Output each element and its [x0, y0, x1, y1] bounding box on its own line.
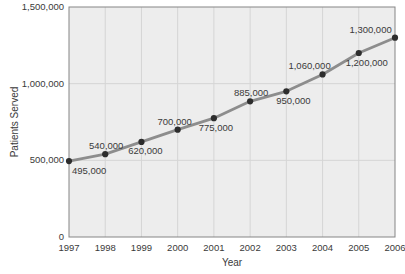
data-point-label: 775,000	[199, 122, 233, 133]
y-tick-label: 0	[59, 231, 64, 242]
data-point	[319, 71, 325, 77]
x-tick-label: 2005	[348, 242, 369, 253]
x-tick-label: 1998	[95, 242, 116, 253]
y-axis-title: Patients Served	[9, 87, 20, 158]
data-point	[392, 35, 398, 41]
data-point-label: 885,000	[234, 87, 268, 98]
x-tick-label: 1997	[58, 242, 79, 253]
patients-served-figure: 0500,0001,000,0001,500,00019971998199920…	[0, 0, 405, 274]
x-tick-label: 2001	[203, 242, 224, 253]
data-point-label: 495,000	[72, 165, 106, 176]
data-point	[247, 98, 253, 104]
data-point-label: 950,000	[276, 95, 310, 106]
data-point	[102, 151, 108, 157]
y-tick-label: 1,000,000	[22, 78, 64, 89]
data-point	[66, 158, 72, 164]
data-point	[211, 115, 217, 121]
x-tick-label: 2002	[240, 242, 261, 253]
x-tick-label: 2004	[312, 242, 333, 253]
x-tick-label: 2003	[276, 242, 297, 253]
x-tick-label: 1999	[131, 242, 152, 253]
data-point	[138, 139, 144, 145]
data-point-label: 700,000	[157, 116, 191, 127]
data-point	[283, 88, 289, 94]
data-point-label: 620,000	[128, 145, 162, 156]
data-point-label: 1,300,000	[349, 24, 391, 35]
x-tick-label: 2000	[167, 242, 188, 253]
x-tick-label: 2006	[384, 242, 405, 253]
x-axis-title: Year	[222, 257, 242, 268]
data-point	[175, 127, 181, 133]
data-point-label: 1,060,000	[288, 60, 330, 71]
data-point-label: 1,200,000	[346, 57, 388, 68]
y-tick-label: 1,500,000	[22, 1, 64, 12]
data-point-label: 540,000	[89, 140, 123, 151]
data-point	[356, 50, 362, 56]
y-tick-label: 500,000	[30, 154, 64, 165]
patients-served-chart: 0500,0001,000,0001,500,00019971998199920…	[0, 0, 405, 274]
